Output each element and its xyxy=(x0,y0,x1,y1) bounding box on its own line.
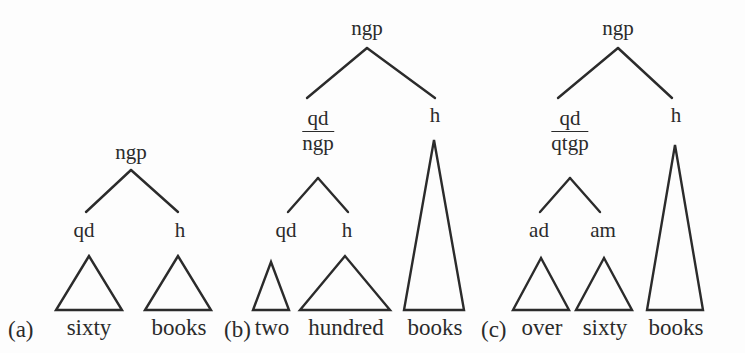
tree-b-root-label: ngp xyxy=(351,18,383,39)
tree-c-root-label: ngp xyxy=(602,18,634,39)
tree-branches-and-triangles xyxy=(0,0,745,353)
branch-line xyxy=(307,48,367,98)
phrase-triangle-books xyxy=(647,145,703,310)
tree-b-word-two: two xyxy=(255,316,290,339)
branch-line xyxy=(618,48,672,98)
tree-b-stacked-node: qdngp xyxy=(302,108,334,155)
stacked-node-numerator: qd xyxy=(302,108,334,132)
tree-c-node-am-2: am xyxy=(590,220,616,241)
stacked-node-numerator: qd xyxy=(551,108,588,132)
phrase-triangle-sixty xyxy=(56,256,122,310)
branch-line xyxy=(367,48,435,98)
branch-line xyxy=(288,178,318,212)
panel-label-b: (b) xyxy=(224,318,251,341)
tree-c-word-books: books xyxy=(649,316,704,339)
branch-line xyxy=(570,178,600,212)
tree-a-word-sixty: sixty xyxy=(67,316,112,339)
tree-c-word-sixty: sixty xyxy=(583,316,628,339)
stacked-node-denominator: ngp xyxy=(302,132,334,155)
tree-b-word-books: books xyxy=(408,316,463,339)
tree-b-word-hundred: hundred xyxy=(308,316,383,339)
tree-a-word-books: books xyxy=(152,316,207,339)
phrase-triangle-books xyxy=(145,256,211,310)
panel-label-a: (a) xyxy=(8,318,34,341)
tree-c-stacked-node: qdqtgp xyxy=(551,108,588,155)
phrase-triangle-books xyxy=(404,140,464,310)
phrase-triangle-hundred xyxy=(300,256,390,310)
branch-line xyxy=(131,170,178,212)
tree-b-node-h-2: h xyxy=(342,220,353,241)
tree-c-node-h-0: h xyxy=(671,105,682,126)
tree-c-node-ad-1: ad xyxy=(529,220,549,241)
branch-line xyxy=(86,170,131,212)
tree-a-node-h-1: h xyxy=(175,220,186,241)
phrase-triangle-over xyxy=(513,258,569,310)
tree-c-word-over: over xyxy=(522,316,563,339)
tree-a-node-qd-0: qd xyxy=(74,220,95,241)
tree-b-node-h-0: h xyxy=(430,105,441,126)
tree-a-root-label: ngp xyxy=(115,142,147,163)
phrase-triangle-sixty xyxy=(576,258,632,310)
tree-b-node-qd-1: qd xyxy=(276,220,297,241)
stacked-node-denominator: qtgp xyxy=(551,132,588,155)
branch-line xyxy=(540,178,570,212)
phrase-triangle-two xyxy=(253,262,289,310)
syntactic-tree-figure: ngpqdhsixtybooks(a)ngpqdngphqdhtwohundre… xyxy=(0,0,745,353)
panel-label-c: (c) xyxy=(481,318,507,341)
branch-line xyxy=(318,178,348,212)
branch-line xyxy=(558,48,618,98)
